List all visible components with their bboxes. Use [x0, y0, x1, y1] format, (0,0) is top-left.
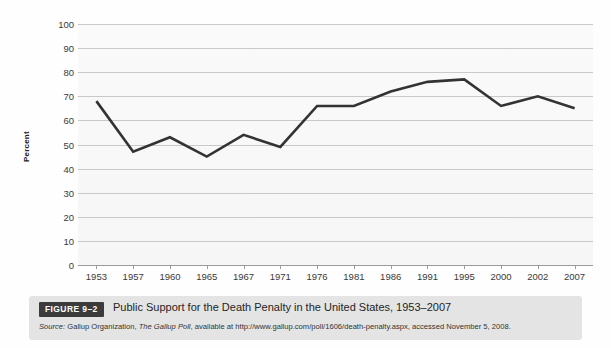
chart-plot-area: Percent 0102030405060708090100 195319571… [0, 0, 611, 292]
figure-number-badge: FIGURE 9–2 [39, 302, 104, 317]
source-publication: The Gallup Poll [139, 322, 191, 331]
figure-caption-panel: FIGURE 9–2 Public Support for the Death … [29, 296, 582, 340]
source-pre: Gallup Organization, [65, 322, 138, 331]
figure-title: Public Support for the Death Penalty in … [113, 301, 574, 313]
figure-container: Percent 0102030405060708090100 195319571… [0, 0, 611, 348]
source-post: , available at http://www.gallup.com/pol… [191, 322, 511, 331]
figure-source: Source: Gallup Organization, The Gallup … [39, 322, 574, 331]
data-line-series [0, 0, 611, 292]
source-label: Source: [39, 322, 65, 331]
